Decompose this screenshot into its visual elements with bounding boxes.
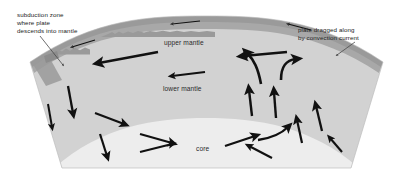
plate-dragged-label: plate dragged along by convection curren… bbox=[298, 26, 359, 42]
mantle-convection-figure: subduction zone where plate descends int… bbox=[0, 0, 413, 177]
core-label: core bbox=[196, 145, 209, 153]
subduction-zone-label: subduction zone where plate descends int… bbox=[17, 11, 77, 35]
lower-mantle-label: lower mantle bbox=[163, 85, 202, 93]
upper-mantle-label: upper mantle bbox=[164, 39, 204, 47]
